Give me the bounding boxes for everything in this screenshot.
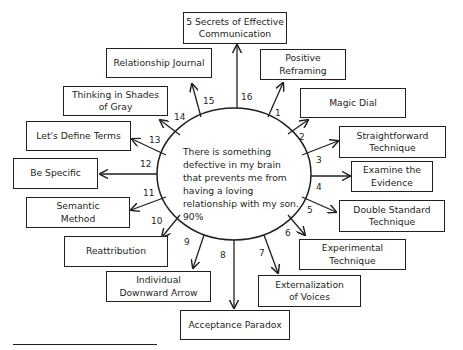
arrow-11	[131, 197, 166, 210]
arrow-15	[192, 84, 201, 117]
central-negative-thought: There is something defective in my brain…	[183, 145, 301, 223]
technique-number-1: 1	[275, 108, 281, 118]
technique-box-5[interactable]: Double Standard Technique	[339, 200, 445, 232]
arrow-7	[264, 235, 278, 273]
technique-box-1[interactable]: Positive Reframing	[260, 49, 346, 80]
technique-box-8[interactable]: Acceptance Paradox	[180, 310, 290, 340]
technique-box-13[interactable]: Let's Define Terms	[26, 121, 131, 151]
technique-number-16: 16	[241, 92, 252, 102]
technique-box-3[interactable]: Straightforward Technique	[339, 126, 446, 158]
footnote-rule	[13, 344, 157, 345]
technique-box-15[interactable]: Relationship Journal	[106, 48, 212, 78]
technique-number-5: 5	[307, 205, 313, 215]
technique-box-14[interactable]: Thinking in Shades of Gray	[63, 86, 168, 116]
technique-box-9[interactable]: Individual Downward Arrow	[106, 271, 211, 302]
technique-number-10: 10	[151, 216, 162, 226]
technique-box-2[interactable]: Magic Dial	[300, 88, 406, 118]
technique-box-10[interactable]: Reattribution	[64, 236, 168, 267]
technique-box-12[interactable]: Be Specific	[13, 158, 98, 189]
arrow-10	[162, 215, 180, 237]
technique-box-7[interactable]: Externalization of Voices	[258, 275, 361, 307]
technique-box-11[interactable]: Semantic Method	[26, 197, 130, 228]
technique-box-4[interactable]: Examine the Evidence	[351, 161, 433, 192]
technique-number-4: 4	[316, 182, 322, 192]
technique-number-9: 9	[184, 237, 190, 247]
arrow-14	[160, 120, 180, 135]
technique-number-14: 14	[174, 112, 185, 122]
technique-number-6: 6	[285, 228, 291, 238]
arrow-2	[288, 120, 308, 134]
technique-number-2: 2	[299, 132, 305, 142]
technique-number-7: 7	[259, 248, 265, 258]
technique-number-15: 15	[203, 96, 214, 106]
technique-number-8: 8	[220, 250, 226, 260]
technique-box-16[interactable]: 5 Secrets of Effective Communication	[183, 12, 287, 44]
technique-number-11: 11	[143, 188, 154, 198]
technique-box-6[interactable]: Experimental Technique	[299, 239, 406, 270]
technique-number-13: 13	[149, 135, 160, 145]
arrow-9	[193, 235, 204, 268]
technique-number-3: 3	[316, 155, 322, 165]
arrow-3	[302, 141, 338, 155]
technique-number-12: 12	[140, 159, 151, 169]
